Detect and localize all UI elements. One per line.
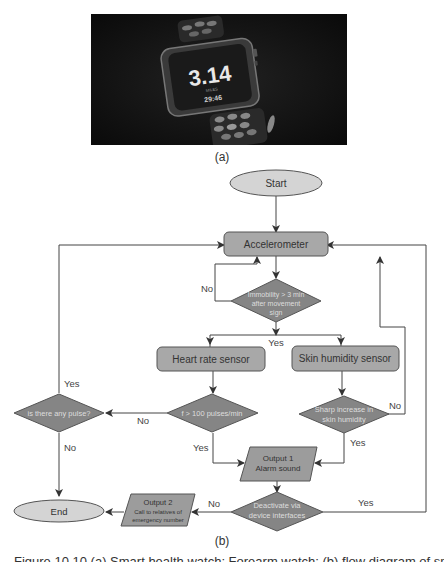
svg-text:after movement: after movement xyxy=(252,300,301,307)
sharp-no-label: No xyxy=(389,400,401,411)
svg-text:device interfaces: device interfaces xyxy=(249,511,306,520)
svg-text:sign: sign xyxy=(270,309,283,317)
threshold-no-label: No xyxy=(137,415,149,426)
svg-text:Alarm sound: Alarm sound xyxy=(256,464,301,473)
svg-text:End: End xyxy=(51,506,68,517)
immobility-no-label: No xyxy=(201,283,213,294)
svg-text:Start: Start xyxy=(265,178,286,189)
deactivate-yes-label: Yes xyxy=(358,497,374,508)
svg-text:Output 2: Output 2 xyxy=(144,498,173,507)
sharp-increase-decision: Sharp increase in skin humidity xyxy=(299,396,389,433)
pulse-no-label: No xyxy=(64,442,76,453)
skin-humidity-sensor-node: Skin humidity sensor xyxy=(292,346,399,371)
svg-text:skin humidity: skin humidity xyxy=(322,415,366,424)
svg-text:Skin humidity sensor: Skin humidity sensor xyxy=(299,353,392,364)
pulse-yes-label: Yes xyxy=(64,378,80,389)
svg-text:f > 100 pulses/min: f > 100 pulses/min xyxy=(181,409,242,418)
end-node: End xyxy=(14,500,104,522)
output1-alarm-node: Output 1 Alarm sound xyxy=(240,447,317,481)
immobility-yes-label: Yes xyxy=(268,337,284,348)
threshold-yes-label: Yes xyxy=(193,442,209,453)
svg-text:Accelerometer: Accelerometer xyxy=(244,239,309,250)
svg-text:Deactivate via: Deactivate via xyxy=(253,501,301,510)
svg-text:Immobility > 3 min: Immobility > 3 min xyxy=(248,291,305,299)
pulse-threshold-decision: f > 100 pulses/min xyxy=(167,394,258,432)
panel-b-label: (b) xyxy=(215,534,230,548)
deactivate-decision: Deactivate via device interfaces xyxy=(231,492,323,531)
accelerometer-node: Accelerometer xyxy=(224,232,328,256)
svg-text:is there any pulse?: is there any pulse? xyxy=(28,409,91,418)
svg-text:Output 1: Output 1 xyxy=(263,454,294,463)
svg-text:Heart rate sensor: Heart rate sensor xyxy=(172,354,250,365)
start-node: Start xyxy=(230,170,322,196)
pulse-check-decision: is there any pulse? xyxy=(14,394,104,432)
svg-text:Sharp increase in: Sharp increase in xyxy=(315,405,373,414)
flow-diagram: Start Accelerometer Immobility > 3 min a… xyxy=(0,0,444,562)
immobility-decision: Immobility > 3 min after movement sign xyxy=(231,279,321,322)
svg-text:Call to relatives of: Call to relatives of xyxy=(134,509,182,515)
output2-call-node: Output 2 Call to relatives of emergency … xyxy=(121,494,195,526)
heart-rate-sensor-node: Heart rate sensor xyxy=(157,347,265,371)
deactivate-no-label: No xyxy=(208,498,220,509)
sharp-yes-label: Yes xyxy=(350,437,366,448)
svg-text:emergency number: emergency number xyxy=(132,517,184,523)
figure-caption: Figure 10.10 (a) Smart health watch; For… xyxy=(14,552,444,562)
